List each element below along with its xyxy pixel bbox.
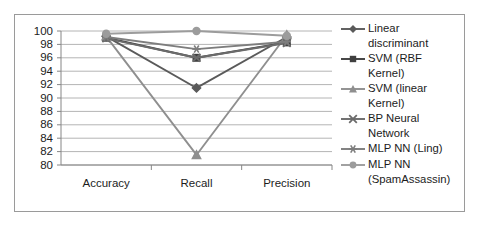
legend-item-label: MLP NN (SpamAssassin) (368, 157, 458, 186)
legend-item[interactable]: MLP NN (Ling) (340, 141, 458, 156)
chart-series (103, 28, 290, 39)
y-axis-tick-label: 98 (40, 38, 53, 50)
y-axis-tick-label: 92 (40, 78, 53, 90)
y-axis-tick-label: 90 (40, 92, 53, 104)
diamond-marker (340, 22, 366, 36)
asterisk-marker (340, 142, 366, 156)
x-axis-category-label: Accuracy (83, 177, 131, 189)
legend-item-label: SVM (RBF Kernel) (368, 51, 458, 80)
legend-item-label: BP Neural Network (368, 111, 458, 140)
legend-item[interactable]: MLP NN (SpamAssassin) (340, 157, 458, 186)
legend-item-label: MLP NN (Ling) (368, 141, 443, 156)
y-axis-tick-label: 88 (40, 105, 53, 117)
chart-legend: Linear discriminantSVM (RBF Kernel)SVM (… (340, 21, 458, 205)
chart-frame: 10098969492908886848280AccuracyRecallPre… (14, 14, 465, 212)
y-axis-tick-label: 96 (40, 51, 53, 63)
y-axis-tick-label: 86 (40, 118, 53, 130)
legend-item[interactable]: SVM (linear Kernel) (340, 81, 458, 110)
legend-item-label: Linear discriminant (368, 21, 458, 50)
y-axis-tick-label: 82 (40, 145, 53, 157)
y-axis-tick-label: 94 (40, 65, 53, 77)
legend-item-label: SVM (linear Kernel) (368, 81, 458, 110)
y-axis-tick-label: 80 (40, 159, 53, 171)
chart-series (102, 32, 291, 92)
x-axis-category-label: Precision (263, 177, 310, 189)
circle-marker (340, 158, 366, 172)
legend-item[interactable]: SVM (RBF Kernel) (340, 51, 458, 80)
y-axis-tick-label: 100 (34, 25, 53, 37)
y-axis-tick-label: 84 (40, 132, 53, 144)
triangle-marker (340, 82, 366, 96)
square-marker (340, 52, 366, 66)
x-axis-category-label: Recall (181, 177, 213, 189)
legend-item[interactable]: BP Neural Network (340, 111, 458, 140)
legend-item[interactable]: Linear discriminant (340, 21, 458, 50)
x-marker (340, 112, 366, 126)
